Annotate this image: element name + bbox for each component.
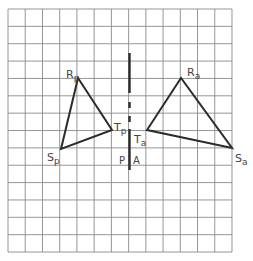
label-tp: Tp: [113, 121, 127, 136]
label-rp: Rp: [66, 68, 80, 83]
label-p: P: [119, 155, 125, 166]
label-ta: Ta: [133, 133, 146, 148]
label-a: A: [133, 155, 140, 166]
label-sa: Sa: [235, 152, 248, 167]
label-ra: Ra: [187, 66, 200, 81]
label-sp: Sp: [47, 151, 60, 166]
reflection-diagram: Rp Tp Sp Ra Ta Sa P A: [0, 0, 253, 261]
